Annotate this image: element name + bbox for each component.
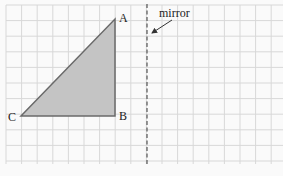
- vertex-label-a: A: [119, 11, 128, 25]
- mirror-label: mirror: [159, 6, 190, 20]
- vertex-label-c: C: [8, 110, 16, 124]
- grid-lines: [6, 5, 283, 164]
- vertex-label-b: B: [119, 109, 127, 123]
- diagram-svg: A B C mirror: [0, 0, 283, 176]
- reflection-diagram: A B C mirror: [0, 0, 283, 176]
